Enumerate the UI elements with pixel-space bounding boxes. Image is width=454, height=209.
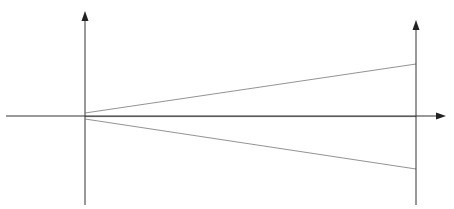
z-axis-arrow-icon xyxy=(436,113,446,120)
beam-order-minus1 xyxy=(85,119,416,169)
x1-axis-arrow-icon xyxy=(413,20,420,30)
grating-diffraction-diagram xyxy=(0,0,454,209)
beam-order-plus1 xyxy=(85,64,416,113)
x-axis-arrow-icon xyxy=(82,11,89,21)
